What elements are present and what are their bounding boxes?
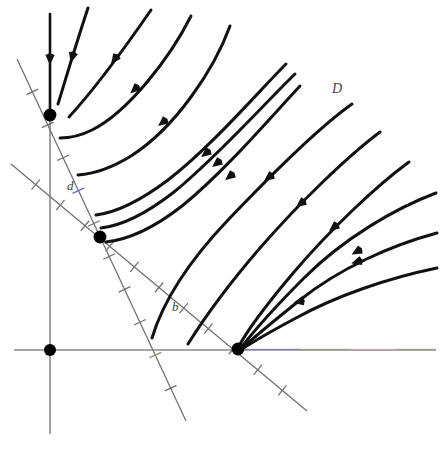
nullcline-d-hash-5: [88, 221, 100, 226]
phase-portrait-canvas: dbD: [0, 0, 448, 449]
eq-origin: [44, 344, 56, 356]
nullcline-d-hash-7: [119, 287, 131, 292]
nullcline-b-hash-10: [254, 365, 262, 375]
phase-portrait-svg: dbD: [0, 0, 448, 449]
nullcline-b-hash-8: [204, 324, 212, 334]
label-d: d: [67, 178, 74, 193]
traj-11-arrow-0: [352, 246, 363, 255]
traj-6-arrow-0: [212, 157, 223, 167]
nullcline-d-hash-6: [103, 254, 115, 259]
nullcline-d-hash-1: [26, 89, 38, 94]
nullcline-d-hash-9: [149, 352, 161, 357]
traj-5: [96, 64, 286, 215]
traj-axis-flow-arrow-0: [45, 53, 54, 65]
nullcline-d-hash-2: [42, 122, 54, 127]
eq-horizontal-axis: [232, 343, 245, 356]
traj-13: [239, 268, 437, 351]
nullcline-d-hash-4: [73, 188, 85, 193]
traj-12-arrow-0: [351, 256, 362, 265]
eq-vertical-axis: [44, 109, 57, 122]
nullcline-d-hash-8: [134, 320, 146, 325]
label-D: D: [331, 81, 342, 96]
nullcline-b-hash-7: [180, 303, 188, 313]
nullcline-d-hash-3: [57, 155, 69, 160]
nullcline-b-hash-5: [130, 262, 138, 272]
nullcline-d-hash-10: [165, 385, 177, 390]
eq-interior: [94, 231, 107, 244]
traj-7-arrow-0: [225, 170, 236, 180]
trajectories-group: [50, 8, 437, 351]
nullcline-b-hash-1: [32, 180, 40, 190]
nullcline-b-hash-6: [155, 283, 163, 293]
nullcline-b-hash-2: [56, 200, 64, 210]
label-b: b: [172, 299, 179, 314]
traj-1-arrow-0: [69, 51, 78, 62]
nullcline-b-hash-11: [278, 385, 286, 395]
